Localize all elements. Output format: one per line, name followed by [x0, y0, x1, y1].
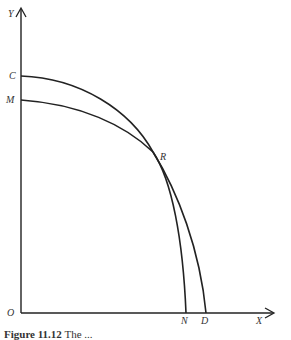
curve-m-n [21, 100, 186, 313]
curve-c-d [21, 76, 206, 313]
caption-text: The ... [64, 328, 92, 340]
point-d-label: D [200, 315, 209, 326]
origin-label: O [7, 307, 14, 318]
caption-prefix: Figure 11.12 [4, 328, 62, 340]
y-axis-label: Y [8, 8, 15, 19]
point-n-label: N [180, 315, 189, 326]
figure-caption: Figure 11.12 The ... [4, 328, 93, 340]
point-c-label: C [9, 70, 16, 81]
point-m-label: M [5, 94, 15, 105]
x-axis-label: X [255, 315, 263, 326]
point-r-label: R [159, 151, 166, 162]
